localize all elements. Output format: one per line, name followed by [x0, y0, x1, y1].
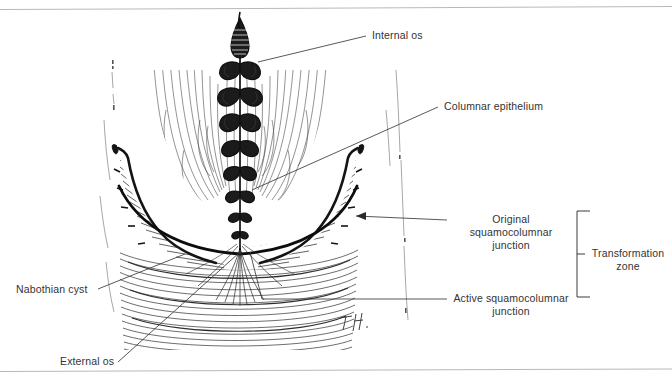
leader-arrowheads — [356, 212, 366, 220]
label-columnar-epithelium: Columnar epithelium — [444, 100, 543, 113]
leader-original-scj — [356, 216, 447, 220]
internal-os — [231, 18, 249, 58]
label-transformation-zone: Transformation zone — [586, 247, 670, 273]
leader-internal-os — [258, 36, 366, 62]
leader-external-os — [118, 252, 240, 362]
label-original-squamocolumnar-junction: Original squamocolumnar junction — [450, 213, 572, 252]
label-internal-os: Internal os — [372, 29, 423, 42]
label-active-scj-line2: junction — [492, 305, 529, 317]
endocervical-canal — [218, 12, 263, 250]
left-lip-notches — [114, 169, 145, 244]
label-transformation-zone-line2: zone — [616, 260, 639, 272]
leader-columnar-epithelium — [252, 107, 438, 190]
label-active-squamocolumnar-junction: Active squamocolumnar junction — [450, 292, 572, 318]
label-original-scj-line2: junction — [492, 239, 529, 251]
leader-active-scj — [250, 252, 447, 299]
cervix-diagram — [0, 0, 672, 380]
label-external-os: External os — [60, 355, 114, 368]
label-transformation-zone-line1: Transformation — [592, 247, 664, 259]
label-active-scj-line1: Active squamocolumnar — [453, 292, 568, 304]
label-original-scj-line1: Original squamocolumnar — [470, 213, 553, 238]
arrowhead-original-scj — [356, 212, 366, 220]
label-nabothian-cyst: Nabothian cyst — [16, 283, 88, 296]
